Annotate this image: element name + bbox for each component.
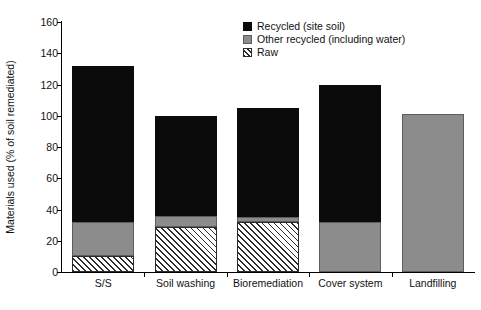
bar-chart-figure: Materials used (% of soil remediated) 02… — [0, 0, 481, 310]
bar-segment — [72, 256, 134, 272]
legend-item: Raw — [243, 46, 405, 59]
x-axis-label: Bioremediation — [227, 278, 309, 289]
bar-segment — [319, 85, 381, 223]
legend-item: Other recycled (including water) — [243, 33, 405, 46]
bar-segment — [155, 227, 217, 272]
bar-group — [155, 116, 217, 272]
x-axis-label: Soil washing — [144, 278, 226, 289]
x-axis-tick-mark — [309, 272, 310, 277]
legend-item-label: Recycled (site soil) — [257, 21, 345, 32]
x-axis-tick-mark — [227, 272, 228, 277]
legend-swatch-icon — [243, 22, 252, 31]
y-axis-title: Materials used (% of soil remediated) — [4, 60, 16, 233]
bar-segment — [237, 108, 299, 217]
x-axis-label: Landfilling — [392, 278, 474, 289]
legend-item-label: Other recycled (including water) — [257, 34, 405, 45]
bar-group — [72, 66, 134, 272]
x-axis-label: S/S — [62, 278, 144, 289]
y-axis-tick-label: 100 — [40, 111, 58, 122]
x-axis-tick-mark — [392, 272, 393, 277]
y-axis-tick-label: 140 — [40, 48, 58, 59]
bar-segment — [402, 114, 464, 272]
y-axis-tick-label: 160 — [40, 17, 58, 28]
y-axis-tick-label: 60 — [46, 173, 58, 184]
bar-segment — [237, 217, 299, 222]
bar-segment — [155, 216, 217, 227]
bar-segment — [319, 222, 381, 272]
bar-group — [319, 85, 381, 273]
x-axis-label: Cover system — [309, 278, 391, 289]
bar-group — [237, 108, 299, 272]
figure-caption — [26, 300, 476, 307]
legend-swatch-icon — [243, 35, 252, 44]
y-axis-tick-label: 80 — [46, 142, 58, 153]
legend-swatch-icon — [243, 48, 252, 57]
bar-segment — [72, 222, 134, 256]
chart-legend: Recycled (site soil)Other recycled (incl… — [239, 17, 409, 62]
legend-item: Recycled (site soil) — [243, 20, 405, 33]
legend-item-label: Raw — [257, 47, 278, 58]
y-axis-tick-label: 120 — [40, 79, 58, 90]
y-axis-tick-label: 40 — [46, 204, 58, 215]
bar-segment — [155, 116, 217, 216]
y-axis-tick-label: 0 — [52, 267, 58, 278]
y-axis-tick-label: 20 — [46, 236, 58, 247]
bar-group — [402, 114, 464, 272]
x-axis-tick-mark — [144, 272, 145, 277]
bar-segment — [72, 66, 134, 222]
x-axis-line — [61, 272, 475, 273]
bar-segment — [237, 222, 299, 272]
